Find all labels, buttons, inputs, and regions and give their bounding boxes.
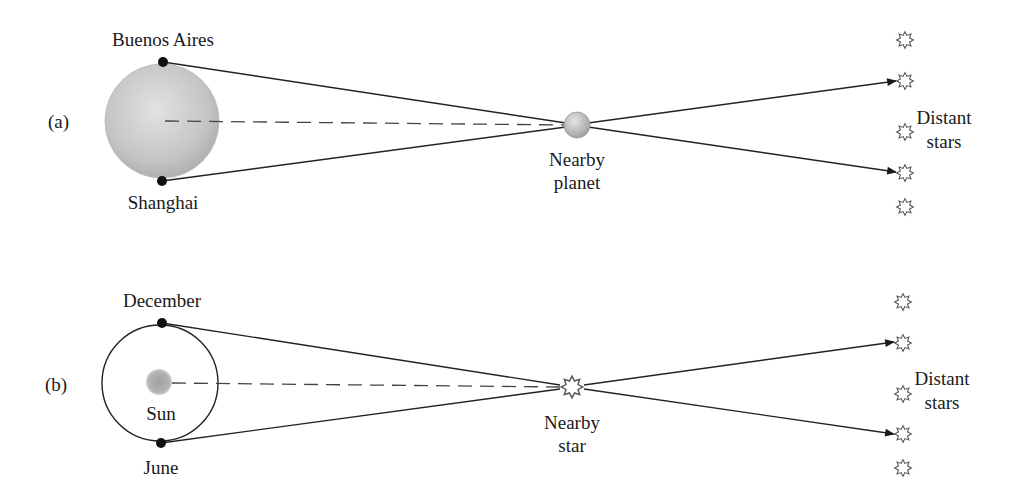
label-distant-stars-b-2: stars (925, 392, 960, 413)
label-nearby-planet-2: planet (554, 172, 601, 193)
panel-a: (a) Buenos Aires Shanghai Nearby planet … (48, 29, 972, 215)
label-nearby-planet-1: Nearby (549, 149, 605, 170)
label-buenos-aires: Buenos Aires (112, 29, 214, 50)
distant-star-icon (895, 426, 912, 443)
sightline-bottom-to-planet (162, 127, 566, 181)
label-shanghai: Shanghai (128, 192, 199, 213)
panel-b: (b) December Sun June Nearby star Distan… (45, 290, 970, 478)
distant-star-icon (897, 165, 914, 182)
distant-star-icon (895, 335, 912, 352)
observer-dot-december (157, 318, 167, 328)
sun (146, 369, 172, 395)
panel-b-tag: (b) (45, 374, 67, 396)
sightline-december-to-star (162, 323, 560, 385)
sightline-june-to-star (161, 389, 560, 443)
sightline-top-to-planet (163, 62, 566, 123)
distant-star-icon (897, 32, 914, 49)
label-december: December (123, 290, 202, 311)
panel-a-tag: (a) (48, 111, 69, 133)
distant-star-icon (895, 386, 912, 403)
earth-globe (105, 64, 219, 178)
observer-dot-buenos-aires (158, 57, 168, 67)
label-sun: Sun (146, 403, 176, 424)
distant-star-icon (897, 73, 914, 90)
label-distant-stars-a-2: stars (927, 131, 962, 152)
dashed-baseline (172, 383, 560, 387)
projection-arrow-upper (588, 81, 896, 123)
parallax-diagram: (a) Buenos Aires Shanghai Nearby planet … (0, 0, 1034, 495)
nearby-star-icon (561, 376, 583, 398)
projection-arrow-lower (588, 127, 896, 172)
distant-star-icon (897, 124, 914, 141)
distant-star-icon (895, 294, 912, 311)
observer-dot-june (156, 438, 166, 448)
distant-star-icon (895, 460, 912, 477)
nearby-planet (564, 112, 590, 138)
label-nearby-star-1: Nearby (544, 412, 600, 433)
observer-dot-shanghai (157, 176, 167, 186)
projection-arrow-lower (584, 389, 894, 434)
distant-star-icon (897, 199, 914, 216)
label-distant-stars-a-1: Distant (917, 107, 973, 128)
label-nearby-star-2: star (558, 435, 586, 456)
projection-arrow-upper (584, 342, 894, 385)
dashed-baseline (165, 121, 565, 125)
label-distant-stars-b-1: Distant (915, 368, 971, 389)
label-june: June (144, 457, 179, 478)
